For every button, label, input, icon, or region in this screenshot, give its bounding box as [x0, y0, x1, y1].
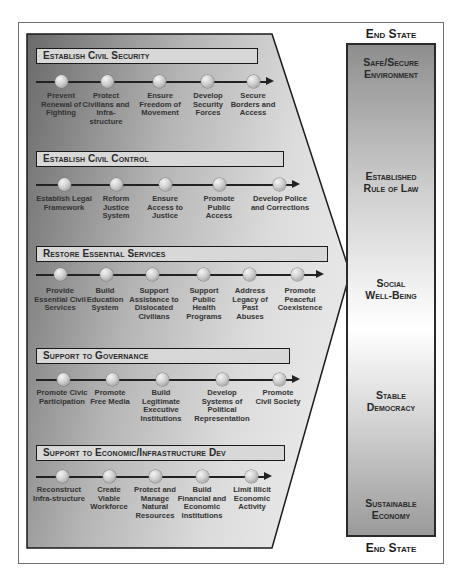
end-state-title-bottom: End State — [346, 541, 436, 555]
task-label: Promote Civic Participation — [34, 389, 90, 406]
task-node — [58, 178, 71, 191]
task-label: Develop Systems of Political Representat… — [191, 389, 253, 423]
end-state-line: Democracy — [348, 401, 434, 413]
arrow-icon — [292, 375, 300, 383]
task-node — [56, 470, 69, 483]
lane-header: Support to Governance — [36, 348, 290, 364]
task-node — [159, 178, 172, 191]
task-node — [149, 470, 162, 483]
task-label: Develop Security Forces — [184, 92, 232, 118]
task-label: Ensure Freedom of Movement — [133, 92, 187, 118]
task-node — [213, 178, 226, 191]
end-state-social-well-being: Social Well-Being — [348, 277, 434, 301]
task-node — [106, 373, 119, 386]
task-label: Limit Illicit Economic Activity — [230, 486, 274, 512]
task-node — [153, 75, 166, 88]
task-label: Address Legacy of Past Abuses — [228, 287, 272, 321]
task-node — [55, 75, 68, 88]
task-label: Promote Civil Society — [255, 389, 301, 406]
end-state-title-top: End State — [346, 27, 436, 41]
task-node — [100, 268, 113, 281]
task-node — [245, 470, 258, 483]
task-node — [101, 75, 114, 88]
end-state-line: Sustainable — [348, 497, 434, 509]
end-state-safe-secure: Safe/Secure Environment — [348, 56, 434, 80]
arrow-icon — [264, 472, 272, 480]
task-label: Support Assistance to Dislocated Civilia… — [126, 287, 182, 321]
end-state-line: Safe/Secure — [348, 56, 434, 68]
end-state-sustainable-economy: Sustainable Economy — [348, 497, 434, 521]
task-label: Establish Legal Framework — [35, 195, 93, 212]
end-state-line: Established — [348, 170, 434, 182]
task-label: Ensure Access to Justice — [142, 195, 188, 221]
task-node — [196, 470, 209, 483]
task-label: Promote Free Media — [88, 389, 132, 406]
task-label: Build Education System — [82, 287, 128, 313]
task-label: Reform Justice System — [92, 195, 140, 221]
timeline-line — [36, 81, 266, 83]
task-label: Provide Essential Civil Services — [32, 287, 88, 313]
lane-header: Restore Essential Services — [36, 246, 328, 262]
end-state-box: Safe/Secure Environment Established Rule… — [346, 43, 436, 537]
end-state-line: Environment — [348, 68, 434, 80]
task-node — [216, 373, 229, 386]
task-node — [197, 268, 210, 281]
task-label: Build Legitimate Executive Institutions — [133, 389, 189, 423]
arrow-icon — [292, 180, 300, 188]
timeline-line — [36, 274, 316, 276]
lane-header: Establish Civil Control — [36, 151, 284, 167]
task-node — [103, 470, 116, 483]
task-label: Build Financial and Economic Institution… — [177, 486, 227, 520]
task-label: Develop Police and Corrections — [250, 195, 310, 212]
end-state-stable-democracy: Stable Democracy — [348, 389, 434, 413]
task-label: Reconstruct Infra-structure — [32, 486, 86, 503]
end-state-line: Social — [348, 277, 434, 289]
task-node — [273, 373, 286, 386]
end-state-line: Well-Being — [348, 289, 434, 301]
task-label: Protect and Manage Natural Resources — [132, 486, 178, 520]
end-state-line: Rule of Law — [348, 182, 434, 194]
task-node — [273, 178, 286, 191]
end-state-line: Stable — [348, 389, 434, 401]
end-state-line: Economy — [348, 509, 434, 521]
arrow-icon — [266, 77, 274, 85]
task-label: Promote Public Access — [195, 195, 243, 221]
task-node — [247, 75, 260, 88]
end-state-rule-of-law: Established Rule of Law — [348, 170, 434, 194]
task-label: Protect Civilians and Infra-structure — [82, 92, 130, 126]
lane-header: Support to Economic/Infrastructure Dev — [36, 445, 285, 461]
task-node — [54, 268, 67, 281]
lane-header: Establish Civil Security — [36, 48, 258, 64]
task-node — [156, 373, 169, 386]
task-label: Create Viable Workforce — [86, 486, 132, 512]
task-label: Support Public Health Programs — [180, 287, 228, 321]
task-label: Promote Peaceful Coexistence — [270, 287, 330, 313]
arrow-icon — [316, 270, 324, 278]
task-node — [110, 178, 123, 191]
task-label: Secure Borders and Access — [230, 92, 276, 118]
task-node — [146, 268, 159, 281]
task-node — [243, 268, 256, 281]
task-node — [201, 75, 214, 88]
task-node — [291, 268, 304, 281]
task-node — [57, 373, 70, 386]
